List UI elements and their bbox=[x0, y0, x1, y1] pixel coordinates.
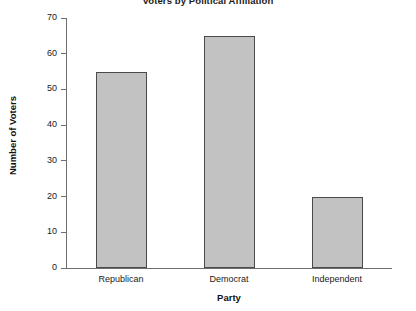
y-axis-tick bbox=[61, 160, 67, 161]
y-axis-tick-label: 20 bbox=[17, 192, 57, 201]
y-axis-tick bbox=[61, 89, 67, 90]
x-axis-tick-label: Republican bbox=[61, 274, 181, 284]
bar-independent bbox=[312, 197, 363, 268]
y-axis-tick bbox=[61, 232, 67, 233]
plot-area bbox=[67, 18, 391, 268]
y-axis-tick-label: 10 bbox=[17, 227, 57, 236]
x-axis-tick-label: Democrat bbox=[169, 274, 289, 284]
chart-title: Voters by Political Affiliation bbox=[0, 0, 416, 6]
y-axis-title: Number of Voters bbox=[7, 76, 18, 196]
x-axis-tick-label: Independent bbox=[277, 274, 397, 284]
bar-chart: Voters by Political Affiliation Number o… bbox=[0, 0, 416, 311]
y-axis-tick bbox=[61, 268, 67, 269]
y-axis-tick bbox=[61, 196, 67, 197]
bar-republican bbox=[96, 72, 147, 268]
bar-democrat bbox=[204, 36, 255, 268]
x-axis-line bbox=[62, 268, 392, 269]
y-axis-tick-label: 0 bbox=[17, 263, 57, 272]
y-axis-tick-label: 40 bbox=[17, 120, 57, 129]
y-axis-tick-label: 70 bbox=[17, 13, 57, 22]
x-axis-title: Party bbox=[67, 292, 391, 303]
y-axis-tick-label: 30 bbox=[17, 156, 57, 165]
y-axis-tick bbox=[61, 125, 67, 126]
y-axis-tick bbox=[61, 18, 67, 19]
y-axis-tick-label: 50 bbox=[17, 84, 57, 93]
y-axis-tick bbox=[61, 53, 67, 54]
y-axis-tick-label: 60 bbox=[17, 49, 57, 58]
